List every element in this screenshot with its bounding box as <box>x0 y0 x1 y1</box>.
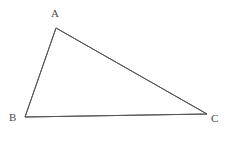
vertex-label-a: A <box>51 8 59 19</box>
vertex-label-b: B <box>9 112 16 123</box>
triangle-shape <box>25 28 207 117</box>
triangle-diagram <box>0 0 228 144</box>
edge-bc <box>25 114 207 117</box>
edge-ab <box>25 28 56 117</box>
figure-canvas: A B C <box>0 0 228 144</box>
vertex-label-c: C <box>211 113 218 124</box>
edge-ac <box>56 28 207 114</box>
